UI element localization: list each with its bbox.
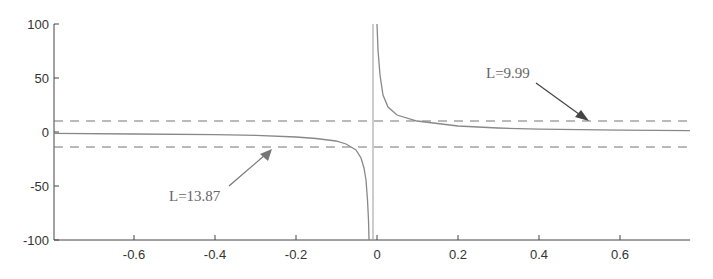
x-tick-label: -0.6 <box>123 247 145 262</box>
chart: 100 50 0 -50 -100 -0.6 -0.4 -0.2 0 0.2 0… <box>0 0 713 279</box>
x-tick-label: 0.6 <box>611 247 629 262</box>
curve-left-branch <box>54 133 369 240</box>
x-tick-label: 0.2 <box>449 247 467 262</box>
annotation-lower-arrow <box>229 155 265 186</box>
x-ticks <box>134 235 620 240</box>
annotation-lower-label: L=13.87 <box>169 188 221 204</box>
annotation-upper-arrow <box>536 83 583 117</box>
y-tick-label: 50 <box>35 71 49 86</box>
y-tick-label: 0 <box>42 125 49 140</box>
curve-right-branch <box>377 24 690 131</box>
y-ticks <box>54 24 59 240</box>
y-tick-label: -50 <box>30 179 49 194</box>
x-tick-label: -0.4 <box>204 247 226 262</box>
y-tick-label: -100 <box>23 233 49 248</box>
x-tick-label: 0 <box>373 247 380 262</box>
y-tick-label: 100 <box>27 17 49 32</box>
arrowhead-icon <box>575 110 589 121</box>
x-tick-label: -0.2 <box>285 247 307 262</box>
annotation-upper-label: L=9.99 <box>486 65 530 81</box>
x-tick-label: 0.4 <box>530 247 548 262</box>
arrowhead-icon <box>260 149 272 161</box>
